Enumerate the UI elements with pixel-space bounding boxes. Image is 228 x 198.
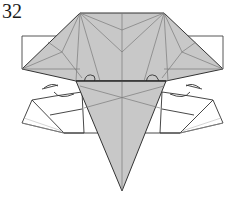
origami-step-diagram (0, 0, 228, 198)
lower-left-flap (22, 84, 84, 133)
lower-right-flap (160, 84, 223, 133)
central-triangle-flap (76, 81, 166, 191)
upper-colored-flap (22, 13, 223, 81)
